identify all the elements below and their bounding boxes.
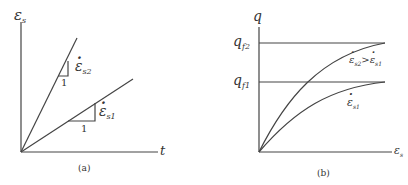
q-symbol: q [233,33,242,49]
y-label-symbol: ε [14,6,22,24]
curve-high-rate-label: εs2>εs1 [349,55,382,67]
label-sub: f1 [242,81,250,90]
label-sub: f2 [242,42,250,51]
panel-b-x-label: εs [394,145,403,158]
panel-a-line-shallow [21,79,133,152]
epsilon-dot: ε [370,55,375,65]
panel-b-caption: (b) [317,169,330,178]
epsilon-dot: ε [99,104,107,118]
slope-run-shallow: 1 [81,124,87,134]
panel-a-caption: (a) [78,164,90,173]
slope-label-s2: εs2 [75,59,92,76]
curve-low-rate-label: εs1 [347,97,360,110]
label-sub: s1 [107,112,116,121]
label-sub: s2 [83,67,92,76]
panel-a-y-label: εs [14,8,26,25]
diagram-canvas [0,0,408,185]
slope-label-s1: εs1 [99,104,116,121]
slope-run-steep: 1 [61,78,67,88]
label-sub: s1 [375,60,382,67]
curve-low-rate [259,82,385,152]
y-label-sub: s [22,16,26,25]
q-symbol: q [233,72,242,88]
label-sub: s1 [353,103,360,110]
epsilon-dot: ε [347,97,353,108]
panel-a-x-label: t [160,144,165,157]
panel-a-line-steep [21,38,77,152]
comparison-operator: > [361,54,369,65]
level-qf2-label: qf2 [233,34,250,51]
level-qf1-label: qf1 [233,73,250,90]
epsilon-dot: ε [75,59,83,73]
panel-b-y-label: q [253,9,262,23]
label-sub: s [400,151,403,158]
epsilon-dot: ε [349,55,354,65]
